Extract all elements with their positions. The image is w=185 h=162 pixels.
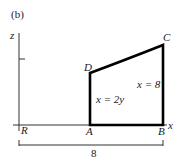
point-label-b: B [158, 125, 165, 137]
equation-left-edge-text: x = 2y [95, 93, 124, 105]
point-label-d: D [83, 61, 92, 73]
point-label-r: R [20, 124, 28, 136]
equation-left-edge: x = 2y [95, 93, 124, 105]
panel-label: (b) [11, 8, 24, 21]
equation-right-edge-text: x = 8 [136, 78, 161, 90]
z-axis-label: z [9, 29, 15, 41]
dimension-label: 8 [91, 147, 97, 159]
diagram-canvas: (b) z x R A B C D x = 2y x = 8 8 [0, 0, 185, 162]
x-axis-label: x [167, 119, 173, 131]
equation-right-edge: x = 8 [136, 78, 161, 90]
point-label-a: A [85, 125, 93, 137]
point-label-c: C [163, 31, 171, 43]
